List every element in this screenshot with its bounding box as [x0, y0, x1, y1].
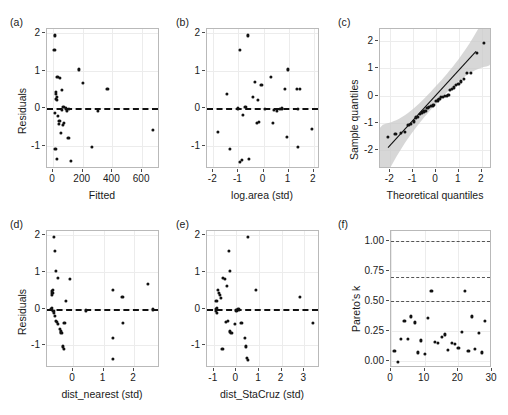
x-axis-tick-label: 2 [310, 173, 316, 184]
gridline-horizontal [391, 331, 490, 332]
y-axis-tick [386, 330, 389, 331]
data-point [121, 296, 124, 299]
y-axis-tick-label: 0 [34, 102, 40, 113]
y-axis-tick [202, 271, 205, 272]
data-point [121, 322, 124, 325]
x-axis-tick [133, 368, 134, 371]
y-axis-tick [202, 308, 205, 309]
y-axis-tick-label: 1 [194, 266, 200, 277]
data-point [480, 351, 483, 354]
data-point [440, 335, 443, 338]
y-axis-tick-label: 1 [34, 266, 40, 277]
y-axis-tick [42, 308, 45, 309]
gridline-horizontal [207, 71, 318, 72]
x-axis-tick [82, 169, 83, 172]
data-point [227, 319, 230, 322]
y-axis-tick-label: 0.00 [365, 354, 384, 365]
data-point [393, 350, 396, 353]
x-axis-tick-label: 20 [452, 372, 463, 383]
x-axis-tick-label: 2 [130, 372, 136, 383]
y-axis-title: Residuals [16, 289, 28, 335]
y-axis-tick-label: 0.75 [365, 264, 384, 275]
y-axis-tick-label: 0 [34, 302, 40, 313]
x-axis-tick [389, 169, 390, 172]
y-axis-tick-label: 2 [34, 229, 40, 240]
data-point [251, 96, 254, 99]
panel-label-c: (c) [338, 16, 351, 28]
x-axis-tick [111, 169, 112, 172]
y-axis-tick-label: -1 [191, 339, 200, 350]
x-axis-tick [103, 368, 104, 371]
x-axis-title: Fitted [22, 189, 182, 201]
y-axis-tick-label: 1.00 [365, 234, 384, 245]
y-axis-tick [202, 32, 205, 33]
x-axis-tick [141, 169, 142, 172]
reference-line [391, 241, 490, 242]
data-point [53, 48, 56, 51]
data-point [215, 299, 218, 302]
gridline-horizontal [47, 146, 158, 147]
data-point [69, 159, 72, 162]
y-axis-tick-label: 1 [194, 64, 200, 75]
data-point [112, 358, 115, 361]
data-point [63, 321, 66, 324]
y-axis-tick [202, 344, 205, 345]
panel-label-b: (b) [176, 16, 189, 28]
x-axis-tick-label: 0 [69, 372, 75, 383]
x-axis-tick-label: -1 [208, 372, 217, 383]
x-axis-title: log.area (std) [182, 189, 342, 201]
y-axis-tick [386, 300, 389, 301]
plot-area-f [390, 230, 491, 367]
data-point [467, 350, 470, 353]
data-point [474, 347, 477, 350]
x-axis-tick-label: 200 [73, 173, 90, 184]
gridline-vertical [425, 231, 426, 366]
y-axis-tick [375, 122, 378, 123]
x-axis-tick [390, 368, 391, 371]
y-axis-tick [386, 270, 389, 271]
reference-line [207, 309, 318, 311]
data-point [240, 321, 243, 324]
y-axis-title: Pareto's k [350, 286, 362, 332]
plot-area-a [46, 28, 159, 168]
gridline-horizontal [207, 235, 318, 236]
data-point [56, 157, 59, 160]
panel-label-e: (e) [176, 218, 189, 230]
data-point [65, 299, 68, 302]
data-point [61, 123, 64, 126]
x-axis-tick [481, 169, 482, 172]
data-point [225, 93, 228, 96]
data-point [299, 87, 302, 90]
data-point [68, 277, 71, 280]
gridline-horizontal [391, 361, 490, 362]
data-point [53, 250, 56, 253]
x-axis-tick [313, 169, 314, 172]
data-point [246, 236, 249, 239]
x-axis-tick [52, 169, 53, 172]
data-point [276, 109, 279, 112]
y-axis-title: Sample quantiles [348, 79, 360, 160]
data-point [58, 76, 61, 79]
data-point [257, 120, 260, 123]
y-axis-tick [42, 271, 45, 272]
data-point [403, 320, 406, 323]
y-axis-tick-label: -2 [364, 143, 373, 154]
data-point [484, 320, 487, 323]
y-axis-tick-label: -1 [364, 116, 373, 127]
y-axis-tick [375, 95, 378, 96]
data-point [423, 352, 426, 355]
x-axis-tick-label: 10 [418, 372, 429, 383]
data-point [271, 121, 274, 124]
gridline-horizontal [47, 272, 158, 273]
data-point [219, 296, 222, 299]
gridline-horizontal [391, 271, 490, 272]
data-point [437, 341, 440, 344]
y-axis-tick [42, 107, 45, 108]
x-axis-tick-label: 0 [260, 173, 266, 184]
data-point [54, 314, 57, 317]
data-point [238, 48, 241, 51]
data-point [228, 250, 231, 253]
y-axis-tick [202, 145, 205, 146]
y-axis-tick [202, 107, 205, 108]
gridline-horizontal [47, 235, 158, 236]
